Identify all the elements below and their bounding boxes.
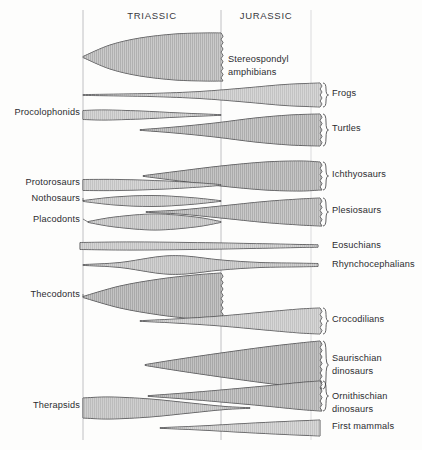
range-chart-svg: StereospondylamphibiansFrogsProcolophoni… xyxy=(0,0,422,450)
taxon-label-eosuchians: Eosuchians xyxy=(332,240,381,250)
taxon-label-nothosaurs: Nothosaurs xyxy=(32,193,81,203)
taxon-label-ichthyosaurs: Ichthyosaurs xyxy=(332,169,386,179)
taxon-label-stereospondyl-amphibians: amphibians xyxy=(228,67,277,77)
taxon-label-saurischian-dinosaurs: Saurischian xyxy=(332,353,382,363)
taxon-label-protorosaurs: Protorosaurs xyxy=(26,177,81,187)
period-header-triassic: TRIASSIC xyxy=(127,10,176,21)
taxon-label-placodonts: Placodonts xyxy=(33,214,80,224)
taxon-label-procolophonids: Procolophonids xyxy=(15,107,81,117)
range-chart-figure: StereospondylamphibiansFrogsProcolophoni… xyxy=(0,0,422,450)
taxon-label-ornithischian-dinosaurs: Ornithischian xyxy=(332,391,388,401)
taxon-label-plesiosaurs: Plesiosaurs xyxy=(332,205,381,215)
taxon-label-rhynchocephalians: Rhynchocephalians xyxy=(332,259,415,269)
taxon-label-turtles: Turtles xyxy=(332,123,361,133)
taxon-label-first-mammals: First mammals xyxy=(332,421,394,431)
period-header-jurassic: JURASSIC xyxy=(240,10,293,21)
taxon-label-saurischian-dinosaurs: dinosaurs xyxy=(332,366,373,376)
taxon-label-ornithischian-dinosaurs: dinosaurs xyxy=(332,404,373,414)
taxon-label-therapsids: Therapsids xyxy=(33,400,80,410)
taxon-label-thecodonts: Thecodonts xyxy=(30,289,80,299)
taxon-label-frogs: Frogs xyxy=(332,88,356,98)
taxon-label-crocodilians: Crocodilians xyxy=(332,314,385,324)
taxon-label-stereospondyl-amphibians: Stereospondyl xyxy=(228,54,289,64)
